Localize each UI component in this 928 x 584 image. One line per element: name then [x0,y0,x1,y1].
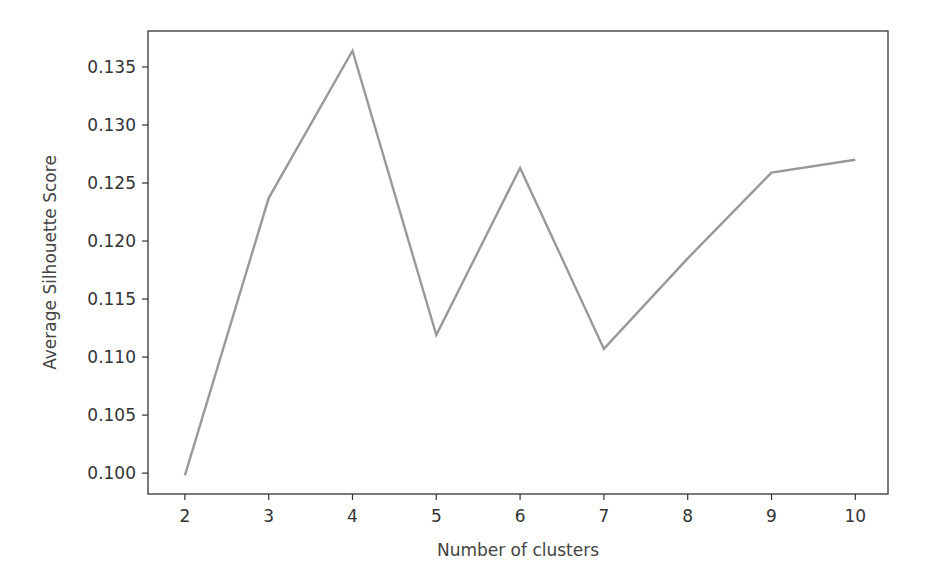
y-tick-label: 0.120 [87,231,136,251]
y-tick-label: 0.100 [87,463,136,483]
y-tick-label: 0.105 [87,405,136,425]
x-tick-label: 2 [179,506,190,526]
x-tick-label: 10 [844,506,866,526]
x-tick-label: 8 [682,506,693,526]
silhouette-line-chart: 2345678910 0.1000.1050.1100.1150.1200.12… [0,0,928,584]
series-layer [185,51,855,476]
x-tick-label: 6 [515,506,526,526]
y-tick-label: 0.125 [87,173,136,193]
silhouette-score-line [185,51,855,476]
x-tick-label: 7 [598,506,609,526]
y-axis-label: Average Silhouette Score [40,155,60,370]
y-tick-label: 0.115 [87,289,136,309]
x-tick-label: 4 [347,506,358,526]
plot-frame [148,31,888,494]
y-axis-ticks: 0.1000.1050.1100.1150.1200.1250.1300.135 [87,57,148,483]
x-tick-label: 9 [766,506,777,526]
y-tick-label: 0.130 [87,115,136,135]
x-tick-label: 5 [431,506,442,526]
x-axis-ticks: 2345678910 [179,494,866,526]
y-tick-label: 0.110 [87,347,136,367]
y-tick-label: 0.135 [87,57,136,77]
x-tick-label: 3 [263,506,274,526]
x-axis-label: Number of clusters [437,540,599,560]
